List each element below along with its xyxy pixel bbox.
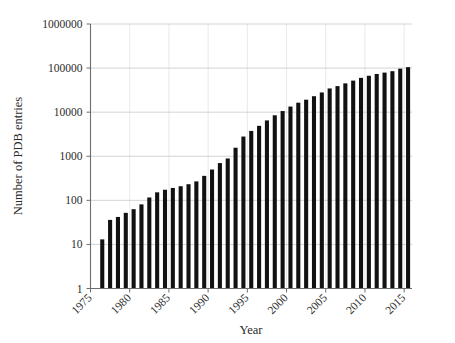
bar-series xyxy=(100,67,410,288)
x-tick-label: 1985 xyxy=(148,291,173,316)
bar xyxy=(108,220,112,289)
bar xyxy=(163,190,167,289)
bar xyxy=(100,239,104,288)
bar xyxy=(155,192,159,288)
bar xyxy=(265,120,269,288)
y-tick-label: 1000 xyxy=(60,150,83,162)
x-tick-label: 2010 xyxy=(344,291,369,316)
bar xyxy=(241,137,245,289)
bar xyxy=(132,209,136,288)
bar xyxy=(406,67,410,288)
bar xyxy=(390,71,394,288)
bar xyxy=(218,163,222,288)
bar xyxy=(116,217,120,289)
bar xyxy=(296,103,300,289)
y-axis-title: Number of PDB entries xyxy=(11,97,25,216)
bar xyxy=(398,69,402,289)
y-tick-label: 1000000 xyxy=(42,18,83,30)
bar xyxy=(281,111,285,288)
bar xyxy=(383,73,387,289)
chart-canvas: 1101001000100001000001000000 19751980198… xyxy=(0,0,455,343)
y-tick-label: 100 xyxy=(65,194,83,206)
bar xyxy=(171,188,175,289)
x-tick-label: 1995 xyxy=(226,291,251,316)
x-axis-title: Year xyxy=(239,323,263,337)
bar xyxy=(202,176,206,289)
y-tick-label: 100000 xyxy=(48,62,83,74)
bar xyxy=(124,213,128,289)
x-tick-label: 2015 xyxy=(383,291,408,316)
pdb-entries-bar-chart: 1101001000100001000001000000 19751980198… xyxy=(0,0,455,343)
bar xyxy=(194,181,198,288)
bar xyxy=(320,92,324,288)
bar xyxy=(359,78,363,289)
bar xyxy=(147,197,151,288)
x-tick-label: 2005 xyxy=(304,291,329,316)
bar xyxy=(249,131,253,289)
x-tick-label: 2000 xyxy=(265,291,290,316)
bar xyxy=(375,74,379,289)
bar xyxy=(226,158,230,288)
y-axis-ticks: 1101001000100001000001000000 xyxy=(42,18,90,295)
bar xyxy=(257,126,261,289)
bar xyxy=(343,83,347,288)
x-tick-label: 1990 xyxy=(187,291,212,316)
x-tick-label: 1980 xyxy=(108,291,133,316)
y-tick-label: 10000 xyxy=(54,106,83,118)
bar xyxy=(312,96,316,288)
bar xyxy=(367,76,371,289)
bar xyxy=(234,148,238,289)
bar xyxy=(328,88,332,288)
bar xyxy=(186,184,190,288)
bar xyxy=(139,204,143,288)
bar xyxy=(304,100,308,289)
bar xyxy=(335,86,339,288)
y-tick-label: 10 xyxy=(71,238,83,250)
bar xyxy=(210,170,214,289)
bar xyxy=(273,115,277,288)
bar xyxy=(351,81,355,289)
y-tick-label: 1 xyxy=(77,283,83,295)
bar xyxy=(288,107,292,289)
bar xyxy=(179,186,183,288)
x-tick-label: 1975 xyxy=(69,291,94,316)
x-axis-ticks: 197519801985199019952000200520102015 xyxy=(69,289,408,317)
